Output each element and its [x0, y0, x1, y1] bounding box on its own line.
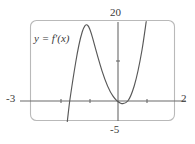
figure-container: 20 -5 -3 2 y = f'(x)	[0, 0, 195, 144]
y-min-label: -5	[110, 124, 119, 135]
x-max-label: 2	[181, 93, 187, 104]
derivative-curve	[67, 22, 146, 122]
x-min-label: -3	[6, 93, 15, 104]
y-max-label: 20	[110, 7, 121, 18]
graph-canvas	[0, 0, 195, 144]
curve-equation-label: y = f'(x)	[34, 33, 69, 44]
